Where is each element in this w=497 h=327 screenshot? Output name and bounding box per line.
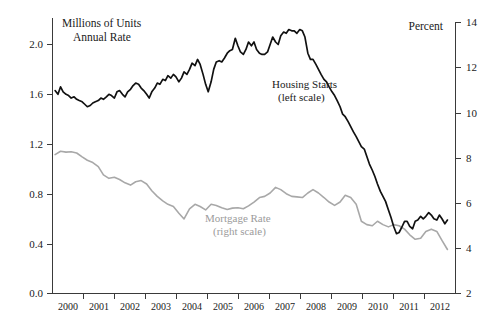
left-tick-label-0-8: 0.8 — [29, 188, 43, 200]
right-tick-label-12: 12 — [466, 61, 477, 73]
left-tick-label-0-4: 0.4 — [29, 238, 43, 250]
chart-background — [0, 0, 497, 327]
chart-svg: 2.0 1.6 1.2 0.8 0.4 0.0 14 12 10 8 6 4 2 — [0, 0, 497, 327]
x-tick-label-2010: 2010 — [368, 301, 388, 312]
right-axis-title: Percent — [409, 20, 444, 32]
right-tick-label-6: 6 — [466, 197, 472, 209]
left-axis-title-line1: Millions of Units — [62, 17, 142, 29]
x-tick-label-2005: 2005 — [213, 301, 233, 312]
x-tick-label-2004: 2004 — [182, 301, 202, 312]
right-tick-label-2: 2 — [466, 287, 472, 299]
x-tick-label-2001: 2001 — [89, 301, 109, 312]
mortgage-rate-label-line1: Mortgage Rate — [205, 212, 271, 224]
x-tick-label-2000: 2000 — [58, 301, 78, 312]
right-tick-label-8: 8 — [466, 152, 472, 164]
housing-starts-label-line2: (left scale) — [278, 91, 325, 104]
right-tick-label-14: 14 — [466, 16, 478, 28]
left-tick-label-2-0: 2.0 — [29, 38, 43, 50]
x-tick-label-2012: 2012 — [430, 301, 450, 312]
x-tick-label-2007: 2007 — [275, 301, 295, 312]
x-tick-label-2002: 2002 — [120, 301, 140, 312]
left-tick-label-1-2: 1.2 — [29, 138, 43, 150]
left-tick-label-0-0: 0.0 — [29, 287, 43, 299]
housing-starts-mortgage-rate-chart: 2.0 1.6 1.2 0.8 0.4 0.0 14 12 10 8 6 4 2 — [0, 0, 497, 327]
left-tick-label-1-6: 1.6 — [29, 88, 43, 100]
mortgage-rate-annotation: Mortgage Rate (right scale) — [205, 212, 271, 238]
x-tick-label-2009: 2009 — [337, 301, 357, 312]
right-tick-label-4: 4 — [466, 242, 472, 254]
x-tick-label-2008: 2008 — [306, 301, 326, 312]
housing-starts-label-line1: Housing Starts — [272, 78, 337, 90]
right-tick-label-10: 10 — [466, 107, 478, 119]
mortgage-rate-label-line2: (right scale) — [213, 225, 266, 238]
x-tick-label-2003: 2003 — [151, 301, 171, 312]
left-axis-title-line2: Annual Rate — [73, 31, 131, 43]
x-tick-label-2011: 2011 — [399, 301, 419, 312]
x-tick-label-2006: 2006 — [244, 301, 264, 312]
